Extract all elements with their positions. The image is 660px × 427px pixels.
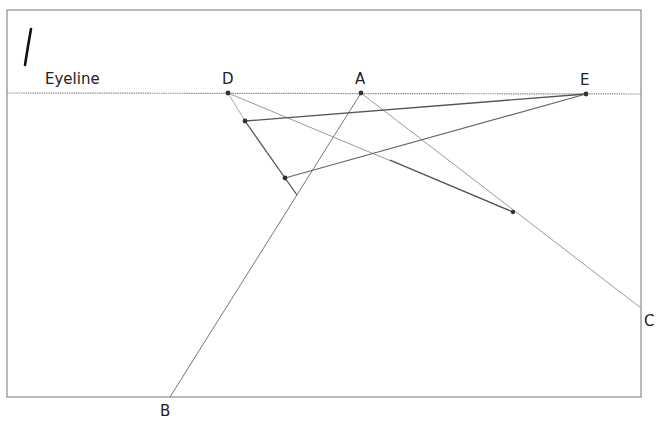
point-a xyxy=(359,91,364,96)
point-e xyxy=(584,92,589,97)
eyeline-label: Eyeline xyxy=(45,72,100,87)
line-a-c xyxy=(361,93,641,308)
point-b-label: B xyxy=(160,404,170,419)
point-right-construction xyxy=(511,210,515,214)
line-d-to-top-corner xyxy=(228,93,245,121)
point-d xyxy=(226,91,231,96)
point-e-label: E xyxy=(580,73,589,88)
eyeline xyxy=(7,93,641,94)
perspective-diagram: Eyeline D A E B C xyxy=(0,0,660,427)
point-a-label: A xyxy=(355,72,365,87)
line-box-vertical-edge xyxy=(245,121,297,195)
step-number-mark-icon xyxy=(25,29,31,65)
point-c-label: C xyxy=(644,314,654,329)
point-box-top-corner xyxy=(243,119,248,124)
line-top-edge-to-e xyxy=(245,94,586,121)
line-a-b xyxy=(170,93,361,397)
picture-frame xyxy=(7,10,641,397)
point-d-label: D xyxy=(222,72,234,87)
point-box-bottom-corner xyxy=(283,176,288,181)
line-d-side-dark-segment xyxy=(390,160,513,212)
diagram-canvas xyxy=(0,0,660,427)
